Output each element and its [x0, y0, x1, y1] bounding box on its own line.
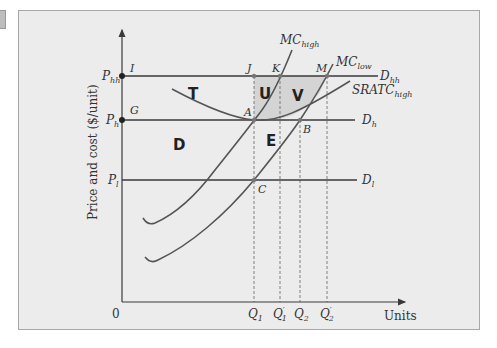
point-ph — [119, 117, 125, 123]
origin-label: 0 — [112, 307, 120, 321]
sratc-high-label: SRATChigh — [352, 83, 412, 99]
point-c — [252, 178, 256, 182]
point-b — [298, 118, 302, 122]
mc-high-label: MChigh — [279, 33, 319, 49]
region-label-e: E — [266, 132, 276, 150]
price-label-hh: Phh — [101, 69, 120, 85]
point-j — [252, 74, 256, 78]
mc-low-label: MClow — [335, 55, 372, 71]
region-label-t: T — [188, 85, 199, 103]
q2-prime-label: Q′2 — [320, 305, 334, 323]
point-label-b: B — [302, 123, 311, 136]
point-label-a: A — [243, 106, 252, 119]
point-label-m: M — [315, 62, 328, 75]
region-label-u: U — [259, 85, 271, 103]
q1-prime-label: Q′1 — [273, 305, 287, 323]
demand-label-l: Dl — [361, 173, 375, 189]
y-axis-label: Price and cost ($/unit) — [86, 84, 100, 220]
x-axis-label: Units — [384, 309, 417, 323]
price-label-h: Ph — [105, 113, 119, 129]
point-label-i: I — [129, 62, 135, 75]
point-label-j: J — [245, 62, 252, 75]
q1-label: Q1 — [248, 307, 263, 323]
q2-label: Q2 — [294, 307, 309, 323]
point-a — [252, 118, 256, 122]
point-label-g: G — [130, 104, 139, 117]
point-label-k: K — [271, 62, 281, 75]
demand-label-h: Dh — [361, 113, 377, 129]
cost-curve-diagram: Price and cost ($/unit) Phh Ph Pl Dhh Dh… — [0, 0, 497, 348]
price-label-l: Pl — [107, 173, 119, 189]
region-label-v: V — [292, 87, 304, 105]
point-label-c: C — [258, 183, 267, 196]
region-label-d: D — [173, 136, 185, 154]
